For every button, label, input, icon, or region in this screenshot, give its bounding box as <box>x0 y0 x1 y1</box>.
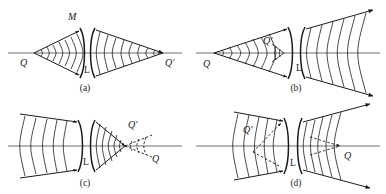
optics-wavefront-figure: Q Q' M L (a) <box>0 0 386 194</box>
panel-caption-d: (d) <box>290 178 301 189</box>
label-object-q: Q <box>152 153 160 164</box>
label-lens-l: L <box>83 157 89 167</box>
label-image-q-prime: Q' <box>128 119 138 130</box>
label-lens-l: L <box>290 158 296 168</box>
panel-caption-b: (b) <box>290 83 301 94</box>
label-image-q-prime: Q' <box>263 35 273 46</box>
label-lens-l: L <box>296 63 302 73</box>
label-object-q: Q <box>20 57 28 68</box>
label-lens-l: L <box>84 65 90 75</box>
label-object-q: Q <box>344 150 352 161</box>
label-wavefront-m: M <box>67 11 77 22</box>
figure-canvas: Q Q' M L (a) <box>0 0 386 194</box>
panel-caption-c: (c) <box>80 178 91 189</box>
figure-background <box>0 0 386 194</box>
label-image-q-prime: Q' <box>165 57 175 68</box>
label-object-q: Q <box>203 58 211 69</box>
panel-caption-a: (a) <box>80 83 91 94</box>
label-image-q-prime: Q' <box>243 124 253 135</box>
